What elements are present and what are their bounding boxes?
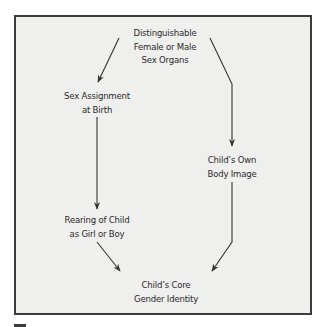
node-gender-identity: Child’s Core Gender Identity (134, 278, 198, 305)
arrow-body-image-to-identity (212, 182, 232, 271)
node-body-image: Child’s Own Body Image (207, 153, 256, 180)
node-label-line: at Birth (64, 103, 130, 117)
node-rearing: Rearing of Child as Girl or Boy (65, 213, 130, 240)
node-sex-organs: Distinguishable Female or Male Sex Organ… (134, 26, 197, 67)
node-label-line: Child’s Own (207, 153, 256, 167)
arrow-organs-to-assignment (98, 38, 119, 82)
node-sex-assignment: Sex Assignment at Birth (64, 89, 130, 116)
node-label-line: Gender Identity (134, 292, 198, 306)
node-label-line: Body Image (207, 167, 256, 181)
arrow-rearing-to-identity (97, 242, 120, 271)
node-label-line: Sex Organs (134, 53, 197, 67)
node-label-line: as Girl or Boy (65, 227, 130, 241)
node-label-line: Distinguishable (134, 26, 197, 40)
node-label-line: Rearing of Child (65, 213, 130, 227)
arrow-organs-to-body-image (210, 38, 232, 146)
node-label-line: Sex Assignment (64, 89, 130, 103)
node-label-line: Female or Male (134, 40, 197, 54)
node-label-line: Child’s Core (134, 278, 198, 292)
